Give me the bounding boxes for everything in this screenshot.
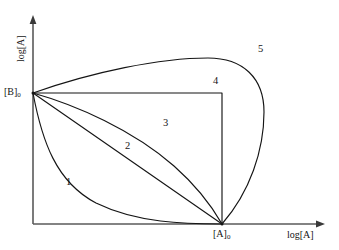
x-tick-subscript: 0	[227, 233, 231, 241]
y-axis-label: log[A]	[16, 35, 26, 62]
x-tick-label-text: [A]	[213, 228, 227, 239]
plot-canvas	[0, 0, 339, 250]
y-tick-subscript: 0	[17, 91, 21, 99]
arrow-right-icon	[316, 221, 325, 228]
node-a0	[221, 223, 224, 226]
curve-2-path	[33, 93, 222, 224]
curve-label-2: 2	[125, 141, 130, 152]
x-axis-label-text: log[A]	[287, 229, 314, 240]
x-axis-label: log[A]	[287, 230, 314, 240]
curve-label-3: 3	[163, 118, 168, 129]
curve-label-4: 4	[213, 76, 218, 87]
curve-label-1: 1	[66, 177, 71, 188]
curve-5-path	[33, 58, 264, 224]
arrow-up-icon	[30, 15, 37, 24]
curve-label-5: 5	[258, 44, 263, 55]
x-tick-label-a0: [A]0	[213, 229, 230, 241]
y-tick-label-b0: [B]0	[4, 87, 21, 99]
y-axis-label-text: log[A]	[15, 35, 26, 62]
node-b0	[32, 92, 35, 95]
figure-container: log[A] log[A] [B]0 [A]0 1 2 3 4 5	[0, 0, 339, 250]
y-tick-label-text: [B]	[4, 86, 17, 97]
